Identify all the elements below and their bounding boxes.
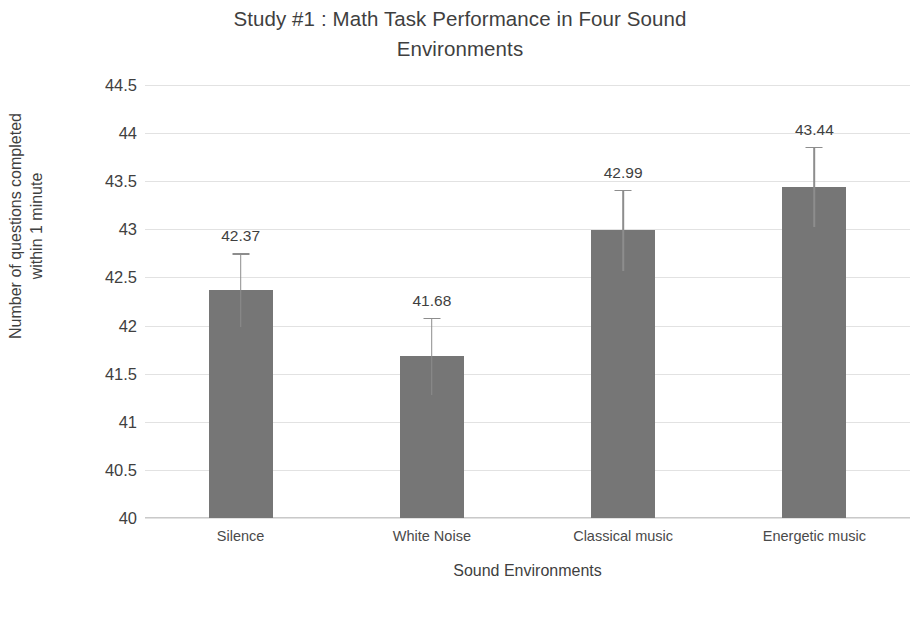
- x-axis-tick-label: Classical music: [528, 528, 719, 554]
- y-axis-tick-label: 44: [77, 124, 137, 143]
- bar-group[interactable]: 42.37: [145, 85, 336, 518]
- y-axis-tick-label: 40: [77, 509, 137, 528]
- x-axis-tick-label: White Noise: [336, 528, 527, 554]
- y-axis-title-line-2: within 1 minute: [28, 173, 45, 280]
- bar-group[interactable]: 43.44: [719, 85, 910, 518]
- y-axis-tick-label: 43: [77, 220, 137, 239]
- x-axis-title: Sound Environments: [145, 562, 910, 580]
- y-axis-tick-label: 41: [77, 412, 137, 431]
- y-axis-tick-label: 44.5: [77, 76, 137, 95]
- bar-group[interactable]: 42.99: [528, 85, 719, 518]
- y-axis-tick-label: 42.5: [77, 268, 137, 287]
- y-axis-tick-label: 41.5: [77, 364, 137, 383]
- error-bar-cap-top: [232, 253, 249, 255]
- chart-title-line-1: Study #1 : Math Task Performance in Four…: [233, 7, 686, 30]
- chart-title: Study #1 : Math Task Performance in Four…: [110, 4, 810, 64]
- y-axis-tick-label: 42: [77, 316, 137, 335]
- x-axis-tick-label: Energetic music: [719, 528, 910, 554]
- error-bar-cap-top: [615, 190, 632, 192]
- bar-value-label: 41.68: [412, 292, 451, 310]
- bar-value-label: 42.37: [221, 227, 260, 245]
- y-axis-title: Number of questions completed within 1 m…: [5, 96, 47, 356]
- bar-value-label: 43.44: [795, 121, 834, 139]
- y-axis-title-line-1: Number of questions completed: [7, 113, 24, 339]
- error-bar: [814, 147, 816, 228]
- gridline: [145, 518, 910, 519]
- bar-value-label: 42.99: [604, 164, 643, 182]
- y-axis-tick-label: 40.5: [77, 460, 137, 479]
- y-axis-tick-label: 43.5: [77, 172, 137, 191]
- bar-series: 42.3741.6842.9943.44: [145, 85, 910, 518]
- bar-chart: Study #1 : Math Task Performance in Four…: [0, 0, 920, 617]
- chart-title-line-2: Environments: [397, 37, 524, 60]
- bar-group[interactable]: 41.68: [336, 85, 527, 518]
- y-axis-tick-labels: 44.54443.54342.54241.54140.540: [75, 85, 137, 518]
- bar[interactable]: [782, 187, 846, 518]
- x-axis-tick-labels: SilenceWhite NoiseClassical musicEnerget…: [145, 528, 910, 554]
- error-bar: [240, 253, 242, 326]
- error-bar: [431, 318, 433, 395]
- bar[interactable]: [591, 230, 655, 518]
- error-bar: [622, 190, 624, 271]
- error-bar-cap-top: [806, 147, 823, 149]
- error-bar-cap-top: [423, 318, 440, 320]
- plot-area: 42.3741.6842.9943.44: [145, 85, 910, 518]
- x-axis-tick-label: Silence: [145, 528, 336, 554]
